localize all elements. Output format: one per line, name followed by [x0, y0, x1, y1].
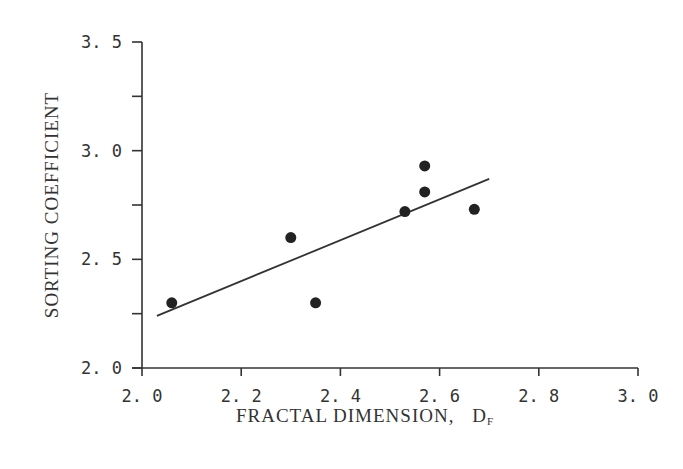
data-point [399, 206, 410, 217]
x-axis-ticks: 2. 02. 22. 42. 62. 83. 0 [122, 368, 659, 406]
data-point [166, 297, 177, 308]
x-tick-label: 3. 0 [618, 386, 659, 406]
scatter-chart: 2. 02. 53. 03. 5 2. 02. 22. 42. 62. 83. … [0, 0, 683, 469]
x-tick-label: 2. 2 [221, 386, 262, 406]
y-tick-label: 3. 5 [81, 32, 122, 52]
y-tick-label: 3. 0 [81, 141, 122, 161]
y-axis-label: SORTING COEFFICIENT [41, 92, 62, 318]
data-point [469, 204, 480, 215]
fit-line [157, 179, 489, 316]
data-point [310, 297, 321, 308]
x-tick-label: 2. 6 [419, 386, 460, 406]
x-tick-label: 2. 4 [320, 386, 361, 406]
x-axis-label-text: FRACTAL DIMENSION, [236, 405, 454, 426]
x-axis-label-symbol: D [472, 405, 487, 426]
y-tick-label: 2. 5 [81, 249, 122, 269]
data-point [285, 232, 296, 243]
x-tick-label: 2. 0 [122, 386, 163, 406]
regression-line [157, 179, 489, 316]
y-axis-ticks: 2. 02. 53. 03. 5 [81, 32, 142, 378]
x-axis-label: FRACTAL DIMENSION, DF [236, 405, 494, 427]
x-axis-label-subscript: F [487, 415, 494, 427]
data-point [419, 160, 430, 171]
y-tick-label: 2. 0 [81, 358, 122, 378]
data-points [166, 160, 480, 308]
x-tick-label: 2. 8 [518, 386, 559, 406]
axes [132, 42, 638, 376]
data-point [419, 186, 430, 197]
